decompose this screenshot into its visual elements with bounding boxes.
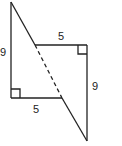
diagonal-dashed-segment xyxy=(35,45,62,98)
right-horizontal-label: 5 xyxy=(58,30,64,42)
geometry-diagram: 9 5 5 9 xyxy=(0,0,122,146)
left-vertical-label: 9 xyxy=(0,46,6,58)
diagonal-lower-segment xyxy=(62,98,87,141)
right-vertical-label: 9 xyxy=(92,80,98,92)
left-horizontal-label: 5 xyxy=(33,103,39,115)
diagonal-upper-segment xyxy=(11,2,35,45)
left-right-angle-marker xyxy=(11,89,20,98)
right-right-angle-marker xyxy=(78,45,87,54)
